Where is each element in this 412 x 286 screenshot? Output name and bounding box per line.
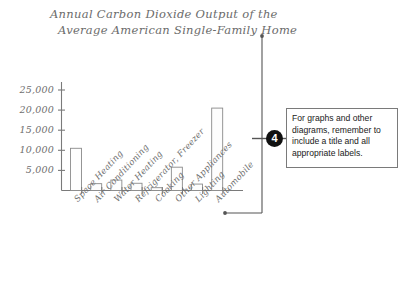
callout-marker-4: 4 <box>266 130 283 147</box>
bar <box>71 148 82 190</box>
y-tick-label: 15,000 <box>8 124 54 135</box>
figure-root: Annual Carbon Dioxide Output of the Aver… <box>0 0 412 286</box>
leader-dot-bottom <box>223 211 227 215</box>
leader-dot-top <box>260 34 264 38</box>
y-tick-label: 5,000 <box>8 164 54 175</box>
y-tick-label: 20,000 <box>8 104 54 115</box>
callout-text: For graphs and other diagrams, remember … <box>292 113 394 159</box>
y-tick-label: 25,000 <box>8 84 54 95</box>
y-tick-label: 10,000 <box>8 144 54 155</box>
